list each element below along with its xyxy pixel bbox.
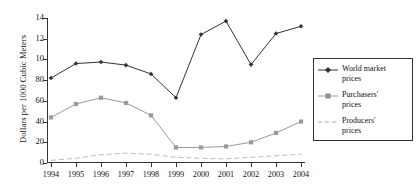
x-axis-tick-mark — [151, 163, 152, 167]
x-axis-tick-mark — [51, 163, 52, 167]
y-axis-tick-label: 10 — [36, 53, 45, 63]
data-point[interactable] — [224, 19, 229, 24]
y-axis-tick-label: 80 — [36, 74, 45, 84]
legend-label-line2: prices — [342, 74, 386, 84]
series-line — [51, 98, 301, 148]
legend-label-line1: Producers' — [342, 116, 375, 126]
chart-figure: Dollars per 1000 Cubic Meters 0204060801… — [0, 0, 420, 188]
y-axis-tick-label: 60 — [36, 95, 45, 105]
data-point[interactable] — [99, 96, 103, 100]
y-axis-tick-label: 14 — [36, 12, 45, 22]
series-line — [51, 153, 301, 160]
x-axis-tick-mark — [126, 163, 127, 167]
legend-label-line2: prices — [342, 126, 375, 136]
legend-swatch-producers — [318, 117, 338, 127]
data-point[interactable] — [224, 144, 228, 148]
y-axis-title: Dollars per 1000 Cubic Meters — [18, 9, 28, 169]
x-axis-tick-label: 2003 — [268, 170, 284, 179]
legend-item-purchasers[interactable]: Purchasers' prices — [318, 90, 408, 109]
data-point[interactable] — [74, 61, 79, 66]
legend-label-line1: World market — [342, 64, 386, 74]
x-axis-tick-label: 2000 — [193, 170, 209, 179]
x-axis-tick-mark — [201, 163, 202, 167]
data-point[interactable] — [99, 60, 104, 65]
series-layer — [47, 18, 305, 163]
data-point[interactable] — [149, 113, 153, 117]
legend-label-purchasers: Purchasers' prices — [342, 90, 378, 109]
legend: World market prices Purchasers' prices P… — [313, 58, 413, 141]
legend-label-world-market: World market prices — [342, 64, 386, 83]
x-axis-tick-label: 2002 — [243, 170, 259, 179]
x-axis-tick-label: 2001 — [218, 170, 234, 179]
data-point[interactable] — [124, 63, 129, 68]
legend-item-world-market[interactable]: World market prices — [318, 64, 408, 83]
y-axis-tick-label: 20 — [36, 136, 45, 146]
series-line — [51, 21, 301, 98]
legend-label-producers: Producers' prices — [342, 116, 375, 135]
data-point[interactable] — [124, 101, 128, 105]
data-point[interactable] — [274, 131, 278, 135]
legend-label-line2: prices — [342, 100, 378, 110]
data-point[interactable] — [299, 119, 303, 123]
y-axis-tick-label: 40 — [36, 116, 45, 126]
legend-label-line1: Purchasers' — [342, 90, 378, 100]
data-point[interactable] — [199, 145, 203, 149]
legend-swatch-purchasers — [318, 91, 338, 101]
x-axis-tick-label: 1997 — [118, 170, 134, 179]
data-point[interactable] — [49, 115, 53, 119]
data-point[interactable] — [49, 76, 54, 81]
y-axis-tick-label: 12 — [36, 33, 45, 43]
series-producers-prices — [51, 153, 301, 160]
x-axis-tick-label: 1994 — [43, 170, 59, 179]
legend-item-producers[interactable]: Producers' prices — [318, 116, 408, 135]
x-axis-tick-mark — [176, 163, 177, 167]
data-point[interactable] — [249, 140, 253, 144]
data-point[interactable] — [299, 24, 304, 29]
x-axis-tick-mark — [276, 163, 277, 167]
x-axis-tick-label: 1995 — [68, 170, 84, 179]
data-point[interactable] — [199, 32, 204, 37]
x-axis-tick-mark — [76, 163, 77, 167]
series-purchasers-prices — [49, 96, 303, 150]
data-point[interactable] — [74, 102, 78, 106]
x-axis-tick-mark — [301, 163, 302, 167]
x-axis-tick-label: 1999 — [168, 170, 184, 179]
legend-swatch-world-market — [318, 65, 338, 75]
x-axis-tick-mark — [101, 163, 102, 167]
plot-area: 020406080101214 199419951996199719981999… — [47, 18, 305, 163]
y-axis-tick-label: 0 — [40, 157, 44, 167]
x-axis-tick-mark — [251, 163, 252, 167]
x-axis-tick-label: 1998 — [143, 170, 159, 179]
x-axis-tick-label: 2004 — [293, 170, 309, 179]
series-world-market-prices — [49, 19, 304, 100]
x-axis-tick-mark — [226, 163, 227, 167]
data-point[interactable] — [174, 145, 178, 149]
x-axis-tick-label: 1996 — [93, 170, 109, 179]
